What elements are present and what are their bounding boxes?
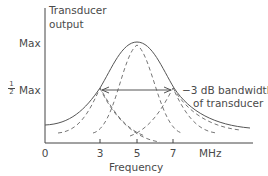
x-tick-0: 0: [42, 147, 49, 159]
x-unit-label: MHz: [199, 147, 221, 159]
y-label-max: Max: [19, 37, 41, 49]
annotation-line2: of transducer: [193, 97, 263, 109]
x-tick-5: 5: [134, 147, 141, 159]
x-axis-title: Frequency: [109, 161, 163, 173]
x-tick-7: 7: [170, 147, 177, 159]
annotation-line1: −3 dB bandwidth: [182, 84, 268, 96]
y-label-half-fraction: 1 2: [8, 81, 15, 96]
component-curve-3mhz: [58, 88, 145, 136]
y-axis-title-line2: output: [49, 18, 84, 30]
y-axis-title-line1: Transducer: [49, 4, 107, 16]
x-tick-3: 3: [97, 147, 104, 159]
y-label-half-max: Max: [19, 84, 41, 96]
half-denominator: 2: [8, 89, 15, 96]
